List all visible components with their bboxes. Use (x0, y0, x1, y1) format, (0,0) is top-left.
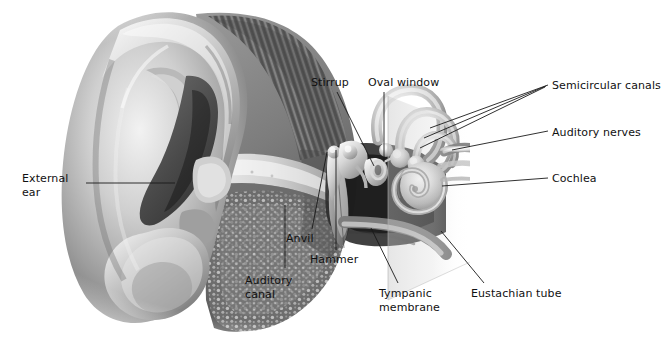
label-line: ear (22, 186, 68, 200)
label-auditory-canal: Auditorycanal (245, 274, 292, 301)
label-line: Auditory nerves (552, 126, 641, 140)
label-auditory-nerves: Auditory nerves (552, 126, 641, 140)
label-line: External (22, 172, 68, 186)
label-line: Oval window (368, 76, 439, 90)
label-anvil: Anvil (286, 232, 314, 246)
label-stirrup: Stirrup (311, 76, 349, 90)
label-line: Stirrup (311, 76, 349, 90)
label-line: canal (245, 288, 292, 302)
label-eustachian-tube: Eustachian tube (471, 287, 562, 301)
label-semicircular-canals: Semicircular canals (552, 79, 661, 93)
label-cochlea: Cochlea (552, 172, 597, 186)
label-line: Hammer (310, 253, 358, 267)
label-oval-window: Oval window (368, 76, 439, 90)
label-tympanic-membrane: Tympanicmembrane (379, 287, 440, 314)
label-line: Eustachian tube (471, 287, 562, 301)
label-line: Anvil (286, 232, 314, 246)
ear-anatomy-figure: ExternalearAuditorycanalAnvilHammerStirr… (0, 0, 670, 344)
label-line: Tympanic (379, 287, 440, 301)
label-line: Auditory (245, 274, 292, 288)
label-line: membrane (379, 301, 440, 315)
label-line: Cochlea (552, 172, 597, 186)
label-external-ear: Externalear (22, 172, 68, 199)
label-hammer: Hammer (310, 253, 358, 267)
label-line: Semicircular canals (552, 79, 661, 93)
